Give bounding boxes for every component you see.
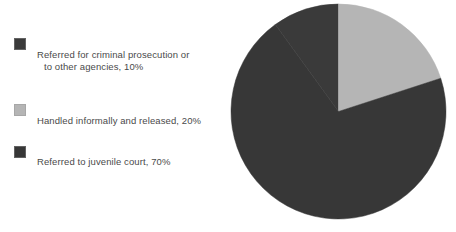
- legend-item-juvenile-court: Referred to juvenile court, 70%: [14, 144, 229, 169]
- chart-legend: Referred for criminal prosecution or to …: [14, 36, 229, 169]
- legend-label-juvenile-court: Referred to juvenile court, 70%: [37, 144, 171, 169]
- pie-chart-figure: Referred for criminal prosecution or to …: [0, 0, 456, 232]
- legend-item-criminal-prosecution: Referred for criminal prosecution or to …: [14, 36, 229, 86]
- pie-chart-svg: [230, 3, 447, 220]
- legend-swatch-criminal-prosecution: [14, 38, 26, 50]
- legend-label-line1: Referred for criminal prosecution or: [37, 49, 190, 60]
- pie-slice-group: [231, 4, 446, 219]
- legend-label-line2: to other agencies, 10%: [37, 61, 190, 74]
- legend-label-line1: Referred to juvenile court, 70%: [37, 156, 171, 167]
- legend-swatch-juvenile-court: [14, 146, 26, 158]
- legend-item-handled-informally: Handled informally and released, 20%: [14, 102, 229, 127]
- legend-label-criminal-prosecution: Referred for criminal prosecution or to …: [37, 36, 190, 86]
- pie-chart: [230, 3, 447, 220]
- legend-swatch-handled-informally: [14, 104, 26, 116]
- legend-label-handled-informally: Handled informally and released, 20%: [37, 102, 201, 127]
- legend-label-line1: Handled informally and released, 20%: [37, 115, 201, 126]
